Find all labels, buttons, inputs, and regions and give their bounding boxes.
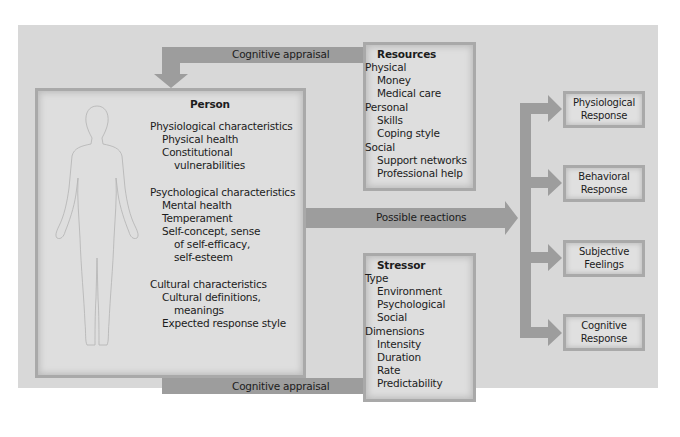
- person-item: Expected response style: [150, 317, 286, 331]
- resources-heading: Personal: [365, 101, 408, 115]
- bottom-appraisal-label: Cognitive appraisal: [232, 380, 330, 392]
- resources-item: Medical care: [377, 87, 441, 101]
- response-line1: Cognitive: [581, 320, 627, 333]
- response-line2: Response: [581, 110, 627, 123]
- distribution-bar: [520, 103, 531, 338]
- stressor-box: Stressor Type Environment Psychological …: [363, 253, 476, 402]
- person-item: of self-efficacy,: [150, 238, 250, 252]
- person-heading-physiological: Physiological characteristics: [150, 120, 293, 134]
- person-heading-cultural: Cultural characteristics: [150, 278, 267, 292]
- stressor-item: Intensity: [377, 338, 421, 352]
- resources-heading: Social: [365, 141, 395, 155]
- branch-arrow-3-icon: [531, 244, 562, 271]
- human-figure-icon: [47, 98, 147, 358]
- reactions-label: Possible reactions: [376, 211, 466, 223]
- response-physiological: Physiological Response: [563, 91, 645, 128]
- resources-item: Money: [377, 74, 411, 88]
- person-title: Person: [190, 98, 230, 112]
- person-item: Temperament: [150, 212, 232, 226]
- response-line1: Behavioral: [578, 171, 629, 184]
- resources-box: Resources Physical Money Medical care Pe…: [363, 42, 476, 191]
- stressor-item: Duration: [377, 351, 421, 365]
- person-item: vulnerabilities: [150, 159, 245, 173]
- response-line1: Subjective: [579, 246, 629, 259]
- person-item: meanings: [150, 304, 224, 318]
- response-behavioral: Behavioral Response: [563, 165, 645, 202]
- person-item: Mental health: [150, 199, 232, 213]
- response-cognitive: Cognitive Response: [563, 314, 645, 351]
- person-box: Person Physiological characteristics Phy…: [35, 88, 306, 378]
- resources-title: Resources: [377, 48, 436, 62]
- response-line1: Physiological: [573, 97, 635, 110]
- stressor-item: Psychological: [377, 298, 445, 312]
- stressor-item: Predictability: [377, 377, 443, 391]
- stressor-title: Stressor: [377, 259, 425, 273]
- response-line2: Feelings: [584, 259, 623, 272]
- top-appraisal-label: Cognitive appraisal: [232, 48, 330, 60]
- stressor-item: Social: [377, 311, 407, 325]
- branch-arrow-2-icon: [531, 169, 562, 196]
- stressor-item: Environment: [377, 285, 442, 299]
- resources-item: Coping style: [377, 127, 440, 141]
- stressor-item: Rate: [377, 364, 400, 378]
- resources-item: Professional help: [377, 167, 463, 181]
- person-heading-psychological: Psychological characteristics: [150, 186, 295, 200]
- response-line2: Response: [581, 184, 627, 197]
- person-item: Cultural definitions,: [150, 291, 261, 305]
- person-item: Physical health: [150, 133, 238, 147]
- person-item: self-esteem: [150, 251, 233, 265]
- stressor-heading: Dimensions: [365, 325, 424, 339]
- resources-item: Skills: [377, 114, 403, 128]
- response-line2: Response: [581, 333, 627, 346]
- person-item: Self-concept, sense: [150, 225, 260, 239]
- stressor-heading: Type: [365, 272, 388, 286]
- resources-heading: Physical: [365, 61, 406, 75]
- person-item: Constitutional: [150, 146, 232, 160]
- response-subjective: Subjective Feelings: [563, 240, 645, 277]
- resources-item: Support networks: [377, 154, 467, 168]
